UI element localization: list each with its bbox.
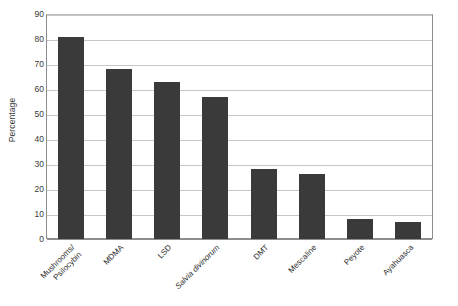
- bar-slot: [288, 15, 336, 239]
- x-tick-label: Mushrooms/ Psilocybin: [39, 243, 84, 288]
- y-tick-label: 60: [35, 84, 44, 94]
- x-tick-label: Peyote: [343, 243, 367, 267]
- y-axis-title: Percentage: [0, 0, 24, 240]
- y-tick-label: 90: [35, 9, 44, 19]
- bar[interactable]: [395, 222, 421, 240]
- y-tick-label: 0: [39, 234, 44, 244]
- x-tick-label: MDMA: [101, 243, 125, 267]
- x-tick-label: DMT: [251, 243, 270, 262]
- x-tick-label: Ayahuasca: [381, 243, 416, 278]
- bar-chart: Percentage 9080706050403020100 Mushrooms…: [0, 0, 458, 306]
- y-tick-label: 20: [35, 184, 44, 194]
- x-tick-slot: DMT: [240, 241, 288, 306]
- bar-slot: [143, 15, 191, 239]
- x-tick-slot: Peyote: [336, 241, 384, 306]
- bar-series: [47, 15, 432, 239]
- bar[interactable]: [106, 69, 132, 239]
- x-axis-tick-labels: Mushrooms/ PsilocybinMDMALSDSalvia divin…: [46, 241, 433, 306]
- bar[interactable]: [299, 174, 325, 239]
- y-tick-label: 70: [35, 59, 44, 69]
- bar-slot: [47, 15, 95, 239]
- bar[interactable]: [202, 97, 228, 240]
- bar[interactable]: [58, 37, 84, 240]
- y-axis-tick-labels: 9080706050403020100: [22, 14, 44, 239]
- bar-slot: [95, 15, 143, 239]
- bar[interactable]: [251, 169, 277, 239]
- x-tick-slot: Ayahuasca: [385, 241, 433, 306]
- y-axis-title-label: Percentage: [7, 98, 17, 142]
- bar-slot: [191, 15, 239, 239]
- x-tick-label: Mescaline: [287, 243, 319, 275]
- x-tick-slot: Mushrooms/ Psilocybin: [46, 241, 94, 306]
- bar-slot: [240, 15, 288, 239]
- bar[interactable]: [154, 82, 180, 240]
- x-tick-slot: Mescaline: [288, 241, 336, 306]
- y-tick-label: 30: [35, 159, 44, 169]
- plot-area: [46, 14, 433, 239]
- y-tick-label: 50: [35, 109, 44, 119]
- bar[interactable]: [347, 219, 373, 239]
- y-tick-label: 80: [35, 34, 44, 44]
- y-tick-label: 40: [35, 134, 44, 144]
- bar-slot: [336, 15, 384, 239]
- bar-slot: [384, 15, 432, 239]
- x-tick-slot: MDMA: [94, 241, 142, 306]
- y-tick-label: 10: [35, 209, 44, 219]
- x-tick-label: LSD: [156, 243, 174, 261]
- x-tick-slot: Salvia divinorum: [191, 241, 239, 306]
